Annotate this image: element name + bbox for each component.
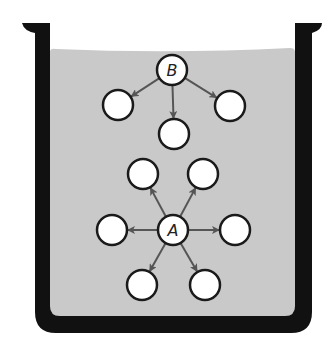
particle xyxy=(97,215,127,245)
arrow-B-to-B2 xyxy=(172,85,173,118)
particle xyxy=(128,159,158,189)
particle xyxy=(127,270,157,300)
particle xyxy=(190,270,220,300)
beaker-diagram: BA xyxy=(0,0,331,350)
particle xyxy=(220,215,250,245)
particle xyxy=(103,90,133,120)
particle-label-B: B xyxy=(167,61,178,80)
particle xyxy=(188,159,218,189)
particle xyxy=(215,91,245,121)
particle-label-A: A xyxy=(167,221,179,240)
particle xyxy=(159,119,189,149)
